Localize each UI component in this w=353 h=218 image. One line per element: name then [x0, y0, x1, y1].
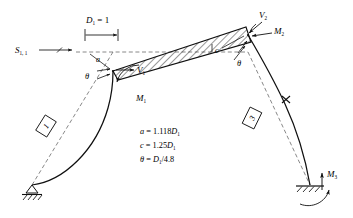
left-angle-label: θ [85, 71, 89, 81]
equation-a: a = 1.118D1 [140, 127, 180, 137]
right-M-sub: 2 [282, 31, 285, 37]
base-M-sub: 3 [335, 174, 338, 180]
eq-a-rhs: 1.118 [153, 127, 171, 136]
eq-t-tail: /4.8 [162, 155, 175, 164]
right-joint-node [247, 34, 249, 36]
equation-theta: θ = D1/4.8 [140, 155, 174, 165]
eq-c-rel: = [144, 141, 153, 150]
base-moment-arc [300, 190, 329, 206]
left-joint-node [112, 70, 114, 72]
right-length-label: c [215, 46, 219, 55]
left-length-label: a [96, 55, 100, 64]
right-moment-arrow [252, 33, 272, 36]
equation-c: c = 1.25D1 [140, 141, 176, 151]
left-theta-arrow-upper [97, 69, 110, 71]
rigid-beam-member [113, 27, 251, 80]
right-shear-arrow [249, 22, 262, 33]
eq-t-var: D [152, 155, 159, 164]
eq-c-var-sub: 1 [173, 145, 176, 151]
left-a-leader [90, 54, 110, 69]
diagram-canvas: D1 = 1 S1, 1 a θ V1 M1 c θ V2 M2 M3 1 3 … [0, 0, 353, 218]
base-moment-label: M3 [326, 169, 338, 180]
left-M-sub: 1 [144, 98, 147, 104]
structural-diagram: D1 = 1 S1, 1 a θ V1 M1 c θ V2 M2 M3 1 3 … [0, 0, 353, 218]
right-moment-label: M2 [273, 26, 285, 37]
right-column-elastic-curve [248, 35, 310, 185]
eq-c-rhs: 1.25 [153, 141, 168, 150]
left-moment-label: M1 [135, 93, 147, 104]
beam-hatched-body [113, 27, 251, 80]
support-right-fixed [296, 173, 329, 206]
eq-a-rel: = [144, 127, 153, 136]
dimension-label: D1 = 1 [85, 15, 109, 26]
right-angle-label: θ [237, 58, 241, 68]
eq-a-var-sub: 1 [177, 131, 180, 137]
eq-c-var: D [166, 141, 173, 150]
applied-load-label: S1, 1 [15, 45, 28, 56]
load-S-sub: 1, 1 [20, 50, 28, 56]
support-left-pin [22, 185, 42, 200]
equation-block: a = 1.118D1 c = 1.25D1 θ = D1/4.8 [140, 127, 180, 165]
right-shear-label: V2 [259, 10, 268, 21]
dim-equals: = 1 [95, 15, 109, 25]
dimension-D1 [85, 29, 118, 41]
left-V-sub: 1 [143, 70, 146, 76]
applied-load-arrow [39, 48, 72, 53]
right-V-sub: 2 [265, 15, 268, 21]
eq-t-rel: = [144, 155, 153, 164]
eq-a-var: D [170, 127, 177, 136]
